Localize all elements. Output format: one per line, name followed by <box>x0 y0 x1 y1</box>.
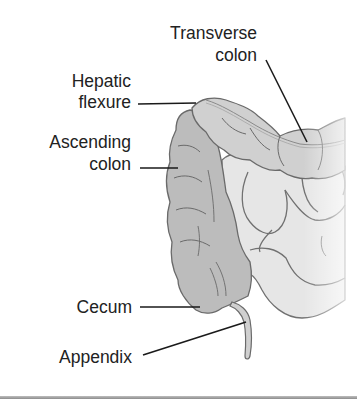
label-appendix-text: Appendix <box>30 347 132 367</box>
label-cecum-text: Cecum <box>50 297 132 317</box>
label-ascending-line2: colon <box>20 154 131 174</box>
label-transverse-line1: Transverse <box>150 23 257 43</box>
label-transverse-line2: colon <box>150 45 257 65</box>
label-ascending-colon: Ascending colon <box>20 132 131 174</box>
label-hepatic-line1: Hepatic <box>40 71 131 91</box>
label-ascending-line1: Ascending <box>20 132 131 152</box>
label-transverse-colon: Transverse colon <box>150 23 257 65</box>
label-cecum: Cecum <box>50 297 132 317</box>
label-hepatic-line2: flexure <box>40 92 131 112</box>
label-appendix: Appendix <box>30 347 132 367</box>
leader-hepatic-flexure <box>138 103 196 104</box>
label-hepatic-flexure: Hepatic flexure <box>40 71 131 112</box>
